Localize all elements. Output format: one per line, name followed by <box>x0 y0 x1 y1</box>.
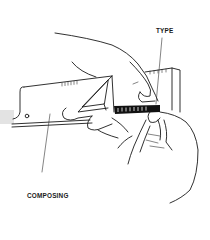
right-hand <box>118 112 198 203</box>
composing-stick-label-line1: COMPOSING <box>27 192 69 200</box>
composing-stick-label: COMPOSING STICK <box>27 176 69 214</box>
type-block <box>114 105 160 114</box>
composing-stick <box>12 76 112 127</box>
stick-knee <box>78 76 114 112</box>
type-label: TYPE <box>156 27 174 35</box>
type-leader-line <box>156 38 162 104</box>
edge-shadow <box>0 110 14 124</box>
